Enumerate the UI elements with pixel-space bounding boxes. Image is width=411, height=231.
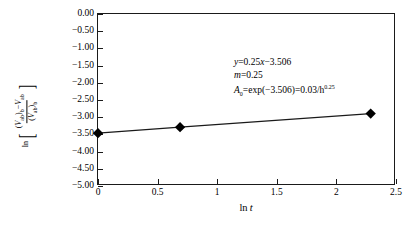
numerator-close-sub: b (19, 109, 25, 112)
y-tick-label: −4.50 (72, 164, 94, 174)
series-line (98, 114, 371, 134)
y-tick-label: −2.00 (72, 78, 94, 88)
fraction-numerator: (Vab)b−Vab (16, 92, 27, 130)
denominator-close-sub: b (32, 102, 38, 105)
numerator-var-sub: ab (19, 115, 25, 121)
y-axis-title: ln [ (Vab)b−Vab (Vab)b ] (2, 0, 52, 231)
denominator-var-sub: ab (32, 108, 38, 114)
x-tick-label: 0 (96, 188, 101, 198)
y-tick-label: −3.00 (72, 112, 94, 122)
y-tick-label: 0.00 (77, 9, 94, 19)
numerator-minus: − (15, 105, 24, 110)
x-axis-title: ln t (97, 203, 395, 214)
y-axis-fraction: (Vab)b−Vab (Vab)b (16, 92, 39, 130)
x-tick-label: 1.5 (271, 188, 283, 198)
y-tick-label: −0.50 (72, 26, 94, 36)
y-tick-label: −1.00 (72, 44, 94, 54)
bracket-open-icon: [ (19, 133, 35, 138)
y-tick-label: −2.50 (72, 95, 94, 105)
x-axis-title-var: t (250, 202, 253, 213)
data-point-marker (366, 108, 376, 118)
y-tick-label: −5.00 (72, 181, 94, 191)
x-tick-label: 2 (334, 188, 339, 198)
y-axis-ln-label: ln (23, 141, 31, 147)
y-tick-label: −4.00 (72, 147, 94, 157)
x-tick-label: 2.5 (390, 188, 402, 198)
numerator-var2: V (15, 100, 24, 105)
paren-open: ( (15, 126, 24, 129)
data-series-layer (98, 14, 394, 184)
bracket-close-icon: ] (19, 85, 35, 90)
fraction-denominator: (Vab)b (27, 100, 39, 123)
denominator-var: V (28, 113, 37, 118)
y-tick-label: −3.50 (72, 130, 94, 140)
numerator-var: V (15, 121, 24, 126)
x-tick-label: 0.5 (152, 188, 164, 198)
data-point-marker (93, 128, 103, 138)
x-tick-mark (396, 179, 397, 184)
x-axis-title-prefix: ln (239, 202, 247, 213)
paren-open-den: ( (28, 118, 37, 121)
y-tick-label: −1.50 (72, 61, 94, 71)
numerator-var2-sub: ab (19, 94, 25, 100)
chart-figure: ln [ (Vab)b−Vab (Vab)b ] 0.00−0.50−1.00−… (0, 0, 411, 231)
data-point-marker (175, 122, 185, 132)
plot-area: 0.00−0.50−1.00−1.50−2.00−2.50−3.00−3.50−… (97, 13, 395, 185)
x-tick-label: 1 (215, 188, 220, 198)
